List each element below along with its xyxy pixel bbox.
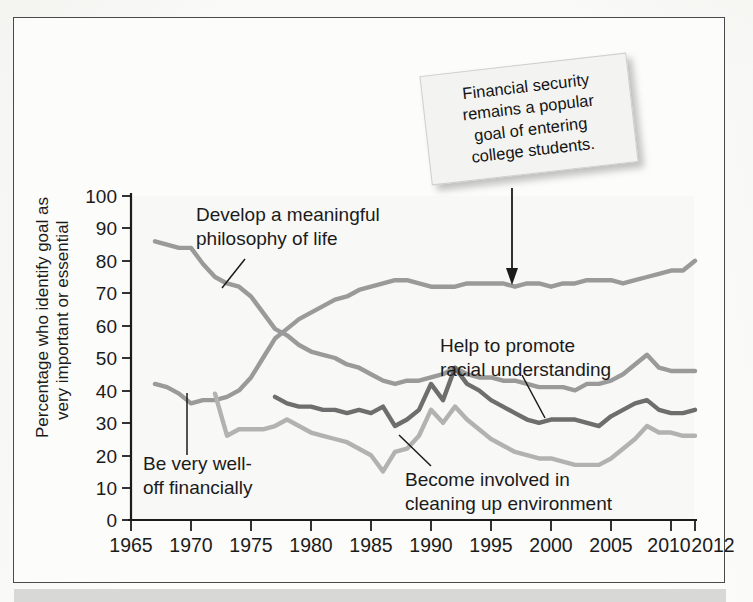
- y-axis-title-line1: Percentage who identify goal as: [33, 197, 52, 438]
- financial-label-line1: Be very well-: [143, 453, 252, 474]
- x-axis-tick-labels: 1965 1970 1975 1980 1985 1990 1995 2000 …: [109, 534, 734, 556]
- financial-label-line2: off financially: [143, 477, 253, 498]
- y-axis-title-line2: very important or essential: [53, 221, 72, 420]
- y-tick-label: 100: [85, 186, 117, 207]
- y-tick-label: 90: [96, 218, 117, 239]
- y-tick-label: 10: [96, 478, 117, 499]
- x-tick-label: 2005: [589, 534, 633, 556]
- x-tick-label: 2000: [529, 534, 573, 556]
- chart-plot-area: 100 90 80 70 60 50 40 30 20 10 0: [0, 0, 753, 602]
- x-tick-label: 1985: [349, 534, 393, 556]
- y-axis-title: Percentage who identify goal as very imp…: [33, 197, 72, 438]
- y-tick-label: 50: [96, 348, 117, 369]
- y-tick-label: 60: [96, 316, 117, 337]
- philosophy-label-line2: philosophy of life: [196, 228, 338, 249]
- x-tick-label: 1965: [109, 534, 153, 556]
- philosophy-label-line1: Develop a meaningful: [196, 204, 380, 225]
- x-tick-label: 2010: [647, 534, 691, 556]
- y-tick-label: 80: [96, 251, 117, 272]
- environment-label-line2: cleaning up environment: [405, 493, 613, 514]
- figure-page: 100 90 80 70 60 50 40 30 20 10 0: [0, 0, 753, 602]
- callout-note: Financial security remains a popular goa…: [419, 53, 638, 186]
- y-tick-label: 20: [96, 446, 117, 467]
- x-tick-label: 1990: [409, 534, 453, 556]
- x-tick-label: 1995: [469, 534, 513, 556]
- y-tick-label: 0: [106, 510, 117, 531]
- y-tick-label: 30: [96, 413, 117, 434]
- y-tick-label: 40: [96, 381, 117, 402]
- x-tick-label: 1975: [229, 534, 273, 556]
- callout-note-text: Financial security remains a popular goa…: [435, 66, 625, 172]
- x-tick-label: 1970: [169, 534, 213, 556]
- racial-label-line2: racial understanding: [440, 359, 611, 380]
- y-tick-label: 70: [96, 283, 117, 304]
- x-tick-label: 1980: [289, 534, 333, 556]
- x-axis-ticks: [131, 520, 695, 531]
- environment-label-line1: Become involved in: [405, 469, 570, 490]
- y-axis-ticks: [122, 196, 131, 520]
- x-tick-label: 2012: [691, 534, 734, 556]
- racial-label-line1: Help to promote: [440, 335, 575, 356]
- line-chart-svg: 100 90 80 70 60 50 40 30 20 10 0: [0, 0, 753, 602]
- y-axis-tick-labels: 100 90 80 70 60 50 40 30 20 10 0: [85, 186, 117, 531]
